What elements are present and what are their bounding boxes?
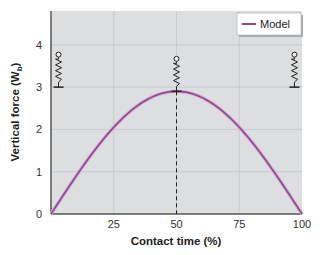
y-axis-label: Vertical force (Wb) [9, 62, 24, 161]
x-tick-label: 100 [293, 218, 311, 230]
y-tick-label: 2 [36, 123, 42, 135]
x-axis-label: Contact time (%) [131, 235, 222, 247]
x-tick-label: 25 [108, 218, 120, 230]
x-tick-label: 50 [170, 218, 182, 230]
legend: Model [237, 13, 303, 37]
y-tick-label: 4 [36, 39, 42, 51]
x-tick-label: 75 [233, 218, 245, 230]
y-tick-label: 1 [36, 166, 42, 178]
y-tick-label: 3 [36, 81, 42, 93]
y-tick-label: 0 [36, 208, 42, 220]
legend-label: Model [260, 18, 290, 30]
force-time-chart: 25507510001234 Model Contact time (%) Ve… [0, 0, 326, 255]
